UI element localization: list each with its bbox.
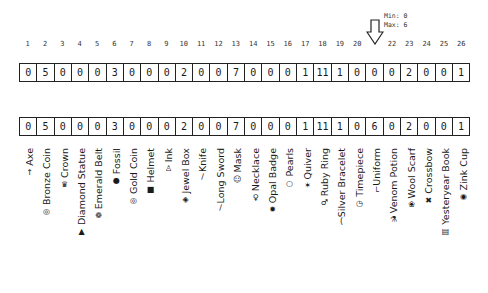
column-index: 20 — [349, 40, 366, 48]
top-cell[interactable]: 0 — [418, 64, 435, 81]
column-index: 7 — [123, 40, 140, 48]
top-cell[interactable]: 0 — [436, 64, 453, 81]
item-name: Pearls — [284, 148, 295, 177]
top-cell[interactable]: 0 — [349, 64, 366, 81]
bottom-cell[interactable]: 0 — [72, 118, 89, 135]
item-name: Mask — [232, 148, 243, 172]
item-label: Fossil● — [110, 148, 122, 184]
item-label: Yesteryear Book▤ — [439, 148, 451, 235]
item-label: Timepiece◷ — [353, 148, 365, 207]
top-cell[interactable]: 0 — [210, 64, 227, 81]
column-index: 15 — [262, 40, 279, 48]
bottom-cell[interactable]: 5 — [37, 118, 54, 135]
item-label: Necklace♀ — [249, 148, 261, 200]
crossbow-icon: ✖ — [425, 196, 432, 205]
bottom-cell[interactable]: 0 — [262, 118, 279, 135]
item-label: Axe↑ — [23, 148, 35, 175]
item-label: Knife∕ — [196, 148, 208, 178]
bottom-cell[interactable]: 1 — [453, 118, 469, 135]
item-label: Long Sword∕ — [214, 148, 226, 209]
bottom-cell[interactable]: 0 — [55, 118, 72, 135]
top-cell[interactable]: 2 — [176, 64, 193, 81]
bottom-cell[interactable]: 0 — [89, 118, 106, 135]
item-name: Bronze Coin — [41, 148, 52, 205]
top-cell[interactable]: 0 — [55, 64, 72, 81]
top-cell[interactable]: 1 — [453, 64, 469, 81]
bottom-cell[interactable]: 0 — [436, 118, 453, 135]
bottom-cell[interactable]: 0 — [384, 118, 401, 135]
top-cell[interactable]: 0 — [20, 64, 37, 81]
top-cell[interactable]: 1 — [332, 64, 349, 81]
bottom-cell[interactable]: 0 — [124, 118, 141, 135]
bottom-cell[interactable]: 7 — [228, 118, 245, 135]
coin-icon: ◎ — [43, 207, 50, 216]
bottom-cell[interactable]: 0 — [349, 118, 366, 135]
top-cell[interactable]: 0 — [141, 64, 158, 81]
timepiece-icon: ◷ — [355, 199, 362, 208]
item-name: Knife — [197, 148, 208, 172]
item-label: Diamond Statue▲ — [75, 148, 87, 234]
bottom-cell[interactable]: 3 — [107, 118, 124, 135]
item-label: Crown♛ — [58, 148, 70, 188]
top-cell[interactable]: 1 — [297, 64, 314, 81]
bottom-cell[interactable]: 0 — [141, 118, 158, 135]
column-index: 14 — [245, 40, 262, 48]
bottom-cell[interactable]: 11 — [314, 118, 331, 135]
item-name: Ruby Ring — [318, 148, 329, 196]
bottom-cell[interactable]: 0 — [20, 118, 37, 135]
fossil-icon: ● — [112, 176, 119, 185]
statue-icon: ▲ — [78, 227, 84, 236]
top-cell[interactable]: 0 — [89, 64, 106, 81]
column-index: 10 — [175, 40, 192, 48]
column-index: 8 — [140, 40, 157, 48]
top-cell[interactable]: 0 — [366, 64, 383, 81]
potion-icon: ⚗ — [390, 215, 397, 224]
belt-icon: ❁ — [95, 211, 102, 220]
mask-icon: ☺ — [233, 175, 241, 184]
item-name: Quiver — [301, 148, 312, 180]
min-max-legend: Min: 0 Max: 6 — [384, 12, 407, 30]
crown-icon: ♛ — [60, 180, 67, 189]
bottom-cell[interactable]: 0 — [280, 118, 297, 135]
bottom-cell[interactable]: 6 — [366, 118, 383, 135]
item-name: Opal Badge — [266, 148, 277, 203]
item-label: Wool Scarf❀ — [405, 148, 417, 208]
item-name: Wool Scarf — [405, 148, 416, 198]
bottom-cell[interactable]: 0 — [210, 118, 227, 135]
item-label: Ink♙ — [162, 148, 174, 173]
top-cell[interactable]: 0 — [262, 64, 279, 81]
top-cell[interactable]: 7 — [228, 64, 245, 81]
top-cell[interactable]: 0 — [159, 64, 176, 81]
top-cell[interactable]: 0 — [384, 64, 401, 81]
bracelet-icon: ( — [340, 217, 343, 226]
top-cell[interactable]: 0 — [280, 64, 297, 81]
item-name: Emerald Belt — [93, 148, 104, 209]
column-index: 13 — [227, 40, 244, 48]
bottom-cell[interactable]: 0 — [245, 118, 262, 135]
item-label: Opal Badge✹ — [266, 148, 278, 213]
bottom-value-row: 050003000200700011110602001 — [19, 117, 470, 136]
bottom-cell[interactable]: 0 — [418, 118, 435, 135]
bottom-cell[interactable]: 0 — [193, 118, 210, 135]
top-cell[interactable]: 2 — [401, 64, 418, 81]
bottom-cell[interactable]: 2 — [176, 118, 193, 135]
top-value-row: 050003000200700011110002001 — [19, 63, 470, 82]
top-cell[interactable]: 0 — [124, 64, 141, 81]
coin-icon: ◎ — [130, 196, 137, 205]
top-cell[interactable]: 0 — [193, 64, 210, 81]
column-index: 1 — [19, 40, 36, 48]
item-label: Helmet■ — [144, 148, 156, 193]
item-name: Crossbow — [422, 148, 433, 194]
top-cell[interactable]: 5 — [37, 64, 54, 81]
top-cell[interactable]: 3 — [107, 64, 124, 81]
bottom-cell[interactable]: 1 — [332, 118, 349, 135]
top-cell[interactable]: 0 — [72, 64, 89, 81]
top-cell[interactable]: 0 — [245, 64, 262, 81]
item-name: Venom Potion — [388, 148, 399, 213]
bottom-cell[interactable]: 0 — [159, 118, 176, 135]
bottom-cell[interactable]: 1 — [297, 118, 314, 135]
column-index: 11 — [192, 40, 209, 48]
top-cell[interactable]: 11 — [314, 64, 331, 81]
ink-icon: ♙ — [164, 164, 171, 173]
bottom-cell[interactable]: 2 — [401, 118, 418, 135]
